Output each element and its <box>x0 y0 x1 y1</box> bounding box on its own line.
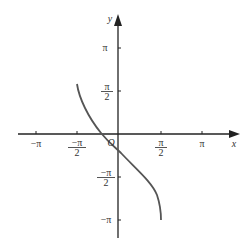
x-tick-pi-half: π2 <box>155 138 167 157</box>
y-axis-arrow-icon <box>114 14 122 26</box>
function-curve <box>77 84 161 220</box>
origin-label: O <box>106 138 116 148</box>
x-axis-arrow-icon <box>229 130 240 138</box>
x-tick-neg-pi: −π <box>29 139 43 149</box>
y-axis-label: y <box>105 14 115 24</box>
chart-canvas <box>0 0 251 247</box>
x-tick-pi: π <box>195 139 209 149</box>
y-tick-pi-half: π2 <box>101 82 113 101</box>
y-tick-pi: π <box>98 43 112 53</box>
y-tick-neg-pi-half: −π2 <box>97 168 115 187</box>
x-axis-label: x <box>229 139 239 149</box>
x-tick-neg-pi-half: −π2 <box>68 138 86 157</box>
y-tick-neg-pi: −π <box>99 215 113 225</box>
